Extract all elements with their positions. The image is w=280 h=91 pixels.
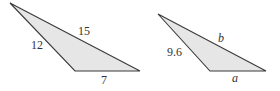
triangle-1-top-label: 15 bbox=[78, 24, 90, 38]
triangle-2-shape bbox=[158, 14, 266, 71]
triangles-diagram: 12 15 7 9.6 b a bbox=[0, 0, 280, 91]
triangle-2-bottom-label: a bbox=[232, 71, 238, 85]
triangle-1-left-label: 12 bbox=[31, 38, 43, 52]
triangle-2-left-label: 9.6 bbox=[167, 45, 182, 59]
triangle-1-shape bbox=[10, 3, 140, 71]
triangle-1-bottom-label: 7 bbox=[101, 73, 107, 87]
triangle-2: 9.6 b a bbox=[158, 14, 266, 85]
triangle-2-top-label: b bbox=[218, 31, 224, 45]
triangle-1: 12 15 7 bbox=[10, 3, 140, 87]
